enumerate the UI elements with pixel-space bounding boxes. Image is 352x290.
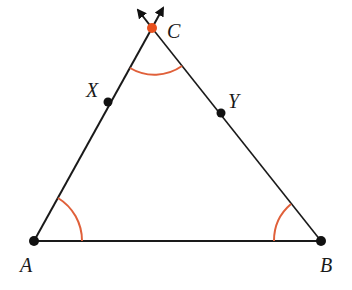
label-c: C xyxy=(167,20,181,42)
point-b xyxy=(316,236,326,246)
side-ac xyxy=(34,28,152,241)
angle-mark-a xyxy=(58,198,82,241)
triangle-diagram: A B C X Y xyxy=(0,0,352,290)
label-y: Y xyxy=(228,90,241,112)
label-x: X xyxy=(85,79,99,101)
side-bc xyxy=(152,28,321,241)
point-c xyxy=(147,23,157,33)
point-a xyxy=(29,236,39,246)
label-a: A xyxy=(18,254,33,276)
point-x xyxy=(104,98,113,107)
angle-mark-c xyxy=(130,66,182,75)
angle-mark-b xyxy=(274,204,291,241)
label-b: B xyxy=(320,254,332,276)
point-y xyxy=(217,109,226,118)
